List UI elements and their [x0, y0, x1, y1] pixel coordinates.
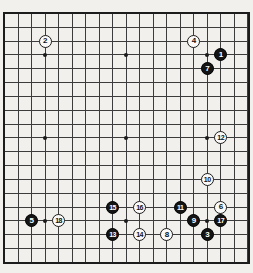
- stone-3: 3: [201, 228, 214, 241]
- stone-16: 16: [133, 201, 146, 214]
- stone-11: 11: [174, 201, 187, 214]
- stone-move-number: 11: [177, 204, 183, 211]
- stone-move-number: 13: [109, 231, 116, 238]
- stone-move-number: 10: [204, 176, 211, 183]
- scanned-page: 123456789101112131415161718: [0, 0, 253, 273]
- stone-10: 10: [201, 173, 214, 186]
- stone-move-number: 18: [55, 217, 62, 224]
- stone-move-number: 14: [136, 231, 143, 238]
- stone-15: 15: [106, 201, 119, 214]
- stone-move-number: 12: [217, 134, 224, 141]
- stone-move-number: 8: [165, 231, 169, 239]
- star-point: [124, 219, 128, 223]
- stone-move-number: 15: [109, 204, 116, 211]
- go-board: 123456789101112131415161718: [0, 0, 253, 273]
- stone-7: 7: [201, 62, 214, 75]
- stone-move-number: 5: [30, 217, 34, 225]
- stone-move-number: 17: [217, 217, 224, 224]
- stone-move-number: 7: [205, 65, 209, 73]
- stone-4: 4: [187, 35, 200, 48]
- stone-move-number: 2: [43, 37, 47, 45]
- stone-move-number: 9: [192, 217, 196, 225]
- stone-move-number: 3: [205, 231, 209, 239]
- star-point: [43, 53, 47, 57]
- stone-move-number: 1: [219, 51, 223, 59]
- star-point: [43, 136, 47, 140]
- stone-move-number: 16: [136, 204, 143, 211]
- stone-move-number: 6: [219, 203, 223, 211]
- stone-6: 6: [214, 201, 227, 214]
- star-point: [43, 219, 47, 223]
- stone-2: 2: [39, 35, 52, 48]
- stone-move-number: 4: [192, 37, 196, 45]
